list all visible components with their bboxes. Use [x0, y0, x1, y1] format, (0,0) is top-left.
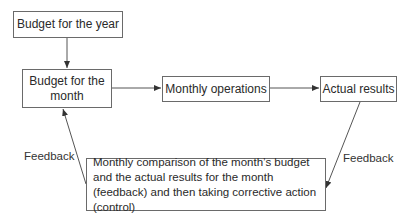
monthly-operations-label: Monthly operations	[165, 82, 266, 97]
monthly-operations-node: Monthly operations	[162, 76, 270, 102]
actual-results-label: Actual results	[322, 82, 394, 97]
monthly-comparison-label: Monthly comparison of the month’s budget…	[93, 155, 319, 215]
feedback-right-label: Feedback	[343, 152, 394, 164]
feedback-left-label: Feedback	[24, 150, 75, 162]
actual-results-node: Actual results	[320, 76, 397, 102]
budget-for-month-label: Budget for the month	[29, 74, 105, 104]
budget-for-year-label: Budget for the year	[17, 17, 119, 32]
budget-for-year-node: Budget for the year	[13, 11, 123, 38]
monthly-comparison-node: Monthly comparison of the month’s budget…	[86, 158, 326, 211]
budget-for-month-node: Budget for the month	[22, 69, 112, 108]
